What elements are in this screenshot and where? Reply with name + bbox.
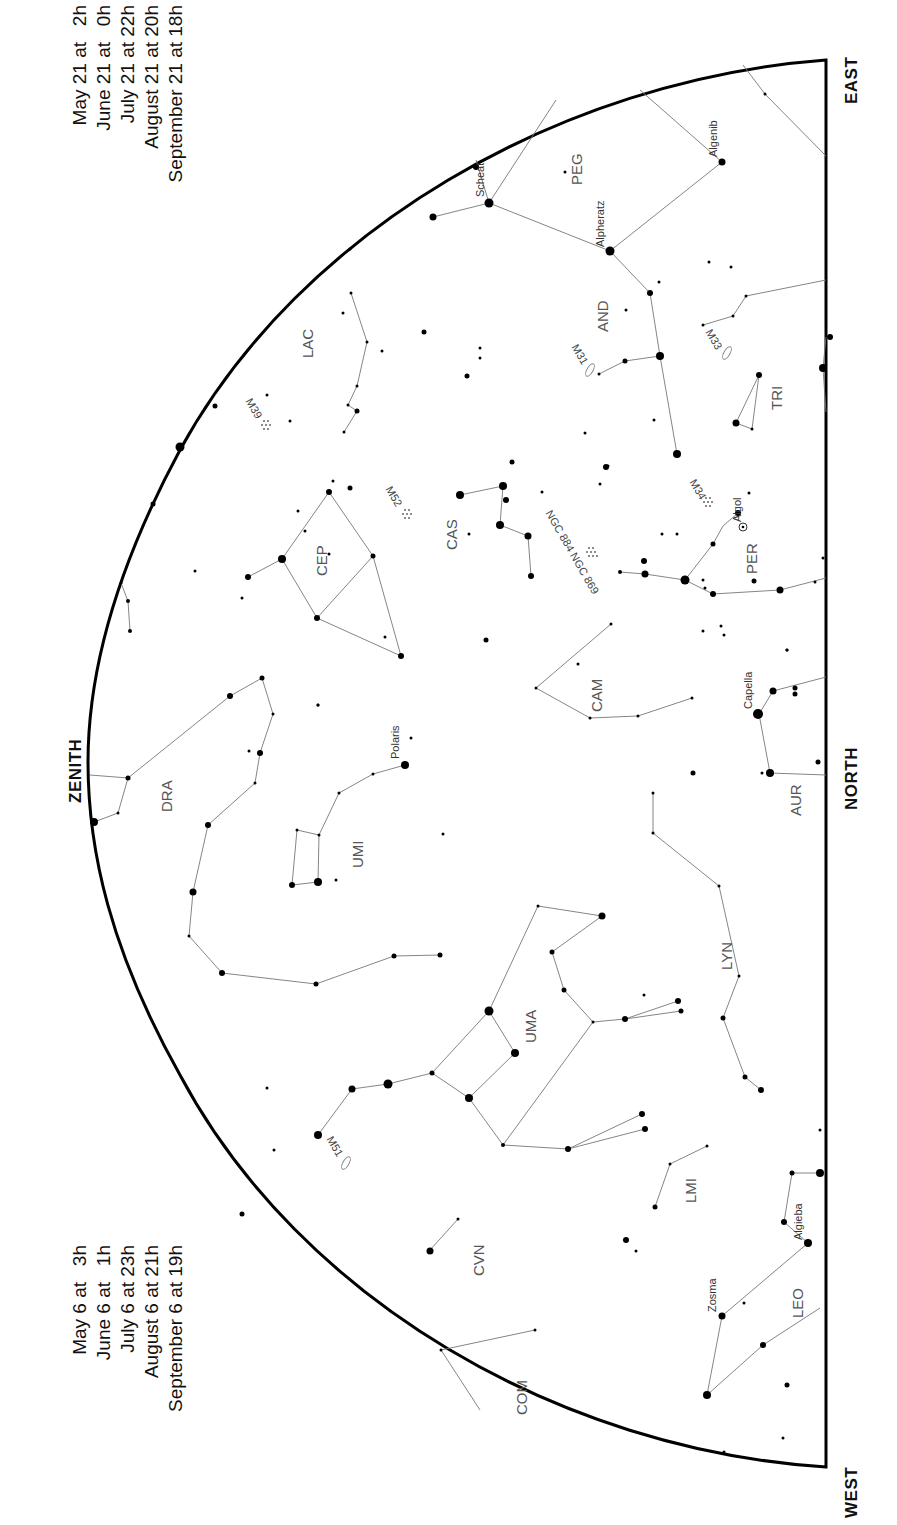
constellation-com: COM [513,1380,530,1415]
north-label: NORTH [842,747,862,810]
constellation-lines [90,65,826,1410]
stars [90,93,833,1454]
constellation-cvn: CVN [470,1244,487,1276]
constellation-leo: LEO [789,1288,806,1318]
zenith-label: ZENITH [66,739,86,803]
star-alpheratz: Alpheratz [594,201,606,247]
star-capella: Capella [742,672,754,709]
star-algieba: Algieba [792,1203,804,1240]
star-zosma: Zosma [706,1278,718,1312]
constellation-peg: PEG [568,153,585,185]
m52-cluster-icon [402,509,412,519]
m34-cluster-icon [703,497,713,507]
constellation-lmi: LMI [682,1178,699,1203]
star-polaris: Polaris [389,725,401,759]
constellation-per: PER [743,543,760,574]
constellation-cas: CAS [443,519,460,550]
star-algol: Algol [731,498,743,522]
times-east-block: May 21 at 2h June 21 at 0h July 21 at 22… [68,5,188,265]
constellation-dra: DRA [158,780,175,812]
east-label: EAST [842,57,862,104]
times-west-block: May 6 at 3h June 6 at 1h July 6 at 23h A… [68,1245,188,1455]
algol-variable-icon [739,523,747,531]
constellation-cam: CAM [588,679,605,712]
horizon-boundary [88,60,826,1467]
m39-cluster-icon [261,420,271,430]
star-scheat: Scheat [474,163,486,197]
constellation-lyn: LYN [718,942,735,970]
constellation-tri: TRI [768,386,785,410]
west-label: WEST [842,1467,862,1518]
constellation-uma: UMA [522,1010,539,1043]
m33-galaxy-icon [721,345,733,360]
constellation-aur: AUR [787,784,804,816]
m51-galaxy-icon [340,1155,352,1170]
open-clusters [261,420,713,557]
star-algenib: Algenib [707,120,719,157]
constellation-and: AND [594,300,611,332]
constellation-umi: UMI [349,841,366,869]
constellation-cep: CEP [313,545,330,576]
double-cluster-icon [586,547,598,557]
m31-galaxy-icon [584,362,596,377]
constellation-lac: LAC [299,329,316,358]
